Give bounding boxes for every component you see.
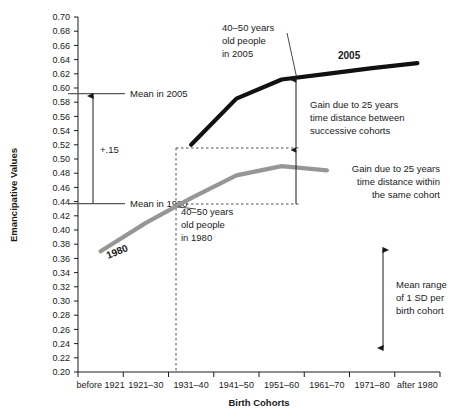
y-tick-label: 0.28	[52, 310, 70, 320]
sd-range-line-2: of 1 SD per	[396, 292, 444, 303]
x-axis-title: Birth Cohorts	[228, 397, 289, 408]
callout-1980-line-2: old people	[181, 219, 225, 230]
sd-range-line-1: Mean range	[396, 279, 447, 290]
y-tick-label: 0.36	[52, 254, 70, 264]
y-tick-label: 0.30	[52, 296, 70, 306]
x-tick-label-3: 1941–50	[219, 380, 254, 390]
y-tick-label: 0.38	[52, 239, 70, 249]
gain-between-line-2: time distance between	[310, 112, 405, 123]
callout-2005-line-1: 40–50 years	[222, 22, 275, 33]
y-tick-label: 0.48	[52, 168, 70, 178]
y-tick-label: 0.46	[52, 183, 70, 193]
y-tick-label: 0.34	[52, 268, 70, 278]
gain-within-line-1: Gain due to 25 years	[352, 163, 440, 174]
gain-within-line-2: time distance within	[357, 176, 440, 187]
x-tick-label-6: 1971–80	[355, 380, 390, 390]
x-tick-label-5: 1961–70	[309, 380, 344, 390]
y-tick-label: 0.66	[52, 41, 70, 51]
emancipative-values-chart: 0.700.680.660.640.620.600.580.560.540.52…	[0, 0, 456, 420]
y-tick-label: 0.44	[52, 197, 70, 207]
callout-2005-line-3: in 2005	[222, 48, 253, 59]
x-tick-label-0: before 1921	[77, 380, 125, 390]
y-tick-label: 0.52	[52, 140, 70, 150]
gain-between-line-1: Gain due to 25 years	[310, 99, 398, 110]
y-tick-label: 0.68	[52, 26, 70, 36]
gain-within-line-3: the same cohort	[372, 189, 440, 200]
callout-2005-line-2: old people	[222, 35, 266, 46]
y-tick-label: 0.20	[52, 367, 70, 377]
mean-2005-label: Mean in 2005	[130, 88, 188, 99]
x-tick-label-2: 1931–40	[174, 380, 209, 390]
series-label-2005: 2005	[338, 50, 361, 61]
y-tick-label: 0.64	[52, 55, 70, 65]
chart-svg: 0.700.680.660.640.620.600.580.560.540.52…	[0, 0, 456, 420]
y-tick-label: 0.58	[52, 97, 70, 107]
y-tick-label: 0.26	[52, 325, 70, 335]
callout-1980-line-3: in 1980	[181, 232, 212, 243]
y-tick-label: 0.22	[52, 353, 70, 363]
y-tick-label: 0.70	[52, 12, 70, 22]
gain-between-line-3: successive cohorts	[310, 125, 391, 136]
y-tick-label: 0.54	[52, 126, 70, 136]
x-tick-label-1: 1921–30	[128, 380, 163, 390]
gap-arrow-label: +.15	[100, 144, 119, 155]
y-tick-label: 0.50	[52, 154, 70, 164]
callout-1980-line-1: 40–50 years	[181, 206, 234, 217]
y-tick-label: 0.40	[52, 225, 70, 235]
y-tick-label: 0.62	[52, 69, 70, 79]
sd-range-text: Mean range of 1 SD per birth cohort	[396, 279, 447, 316]
x-tick-label-4: 1951–60	[264, 380, 299, 390]
y-tick-label: 0.56	[52, 112, 70, 122]
x-tick-label-7: after 1980	[397, 380, 438, 390]
y-tick-label: 0.32	[52, 282, 70, 292]
sd-range-line-3: birth cohort	[396, 305, 444, 316]
y-tick-label: 0.24	[52, 339, 70, 349]
y-tick-label: 0.42	[52, 211, 70, 221]
y-tick-label: 0.60	[52, 83, 70, 93]
y-axis-title: Emancipative Values	[8, 148, 19, 242]
